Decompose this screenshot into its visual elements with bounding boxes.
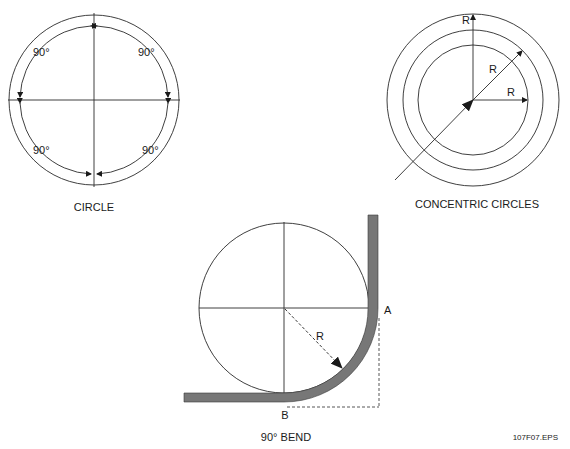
arc-bottom-left bbox=[20, 103, 91, 174]
radius-label-middle: R bbox=[489, 63, 497, 75]
arc-top-right bbox=[97, 26, 168, 97]
radius-label-inner: R bbox=[507, 86, 515, 98]
bent-bar bbox=[184, 215, 378, 402]
center-pointer-arrow bbox=[395, 100, 473, 180]
diagram-canvas: 90° 90° 90° 90° CIRCLE R R R CONCENTRIC … bbox=[0, 0, 570, 449]
angle-label-top-right: 90° bbox=[138, 46, 155, 58]
angle-label-top-left: 90° bbox=[33, 46, 50, 58]
bend-caption: 90° BEND bbox=[261, 431, 311, 443]
bend-radius-label: R bbox=[316, 330, 324, 342]
radius-label-outer: R bbox=[462, 14, 470, 26]
bend-figure: R A B 90° BEND bbox=[184, 215, 392, 443]
point-a-label: A bbox=[384, 304, 392, 316]
circle-figure: 90° 90° 90° 90° CIRCLE bbox=[8, 13, 180, 213]
angle-label-bottom-left: 90° bbox=[33, 144, 50, 156]
concentric-caption: CONCENTRIC CIRCLES bbox=[415, 198, 539, 210]
circle-caption: CIRCLE bbox=[74, 201, 114, 213]
file-label: 107F07.EPS bbox=[513, 433, 558, 442]
arc-bottom-right bbox=[97, 103, 168, 174]
concentric-figure: R R R CONCENTRIC CIRCLES bbox=[387, 14, 559, 210]
angle-label-bottom-right: 90° bbox=[142, 144, 159, 156]
arc-top-left bbox=[20, 26, 91, 97]
bend-radius-arrow bbox=[285, 309, 342, 368]
point-b-label: B bbox=[281, 409, 288, 421]
